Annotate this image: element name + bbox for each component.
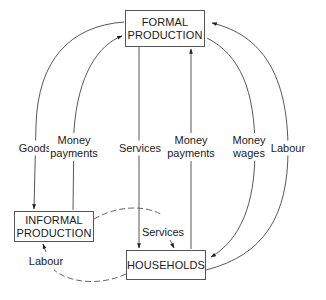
formal-production-line2: PRODUCTION: [128, 29, 203, 42]
goods-label-text: Goods: [19, 142, 51, 154]
money-wages-line1: Money: [232, 134, 265, 147]
money-payments-households-label: Money payments: [166, 133, 216, 161]
households-node: HOUSEHOLDS: [126, 250, 206, 280]
money-wages-label: Money wages: [231, 133, 266, 161]
money-payments-informal-line1: Money: [50, 134, 98, 147]
money-payments-informal-line2: payments: [50, 147, 98, 160]
goods-label: Goods: [18, 141, 52, 156]
services-informal-arrowtip: [170, 240, 174, 248]
labour-informal-arrow: [54, 270, 126, 282]
services-formal-label-text: Services: [119, 142, 161, 154]
labour-formal-label: Labour: [270, 141, 306, 156]
services-informal-arrow: [94, 208, 162, 219]
informal-production-line1: INFORMAL: [25, 214, 83, 227]
money-payments-households-line1: Money: [167, 134, 215, 147]
labour-informal-label: Labour: [28, 254, 64, 269]
services-formal-label: Services: [118, 141, 162, 156]
goods-arrow: [34, 22, 124, 209]
money-payments-informal-label: Money payments: [49, 133, 99, 161]
households-label: HOUSEHOLDS: [127, 259, 205, 272]
services-informal-label-text: Services: [142, 226, 184, 238]
money-payments-households-line2: payments: [167, 147, 215, 160]
formal-production-node: FORMAL PRODUCTION: [125, 10, 205, 47]
services-informal-label: Services: [141, 225, 185, 240]
formal-production-line1: FORMAL: [142, 16, 188, 29]
informal-production-line2: PRODUCTION: [17, 227, 92, 240]
informal-production-node: INFORMAL PRODUCTION: [14, 211, 94, 242]
labour-formal-label-text: Labour: [271, 142, 305, 154]
money-wages-line2: wages: [232, 147, 265, 160]
money-payments-informal-arrow: [73, 36, 122, 210]
labour-informal-label-text: Labour: [29, 255, 63, 267]
labour-informal-arrowtip: [43, 244, 46, 252]
